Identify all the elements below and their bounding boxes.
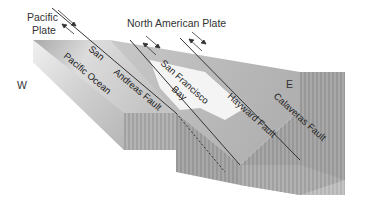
san-andreas-motion-arrows bbox=[58, 10, 76, 34]
pacific-plate-label-line2: Plate bbox=[32, 24, 56, 36]
pacific-plate-label-line1: Pacific bbox=[27, 11, 58, 23]
east-label: E bbox=[286, 78, 293, 90]
fault-block-diagram: Pacific Plate North American Plate W E S… bbox=[0, 0, 370, 207]
west-label: W bbox=[17, 79, 27, 91]
north-american-plate-label: North American Plate bbox=[127, 17, 226, 29]
calaveras-motion-arrows bbox=[189, 32, 206, 51]
